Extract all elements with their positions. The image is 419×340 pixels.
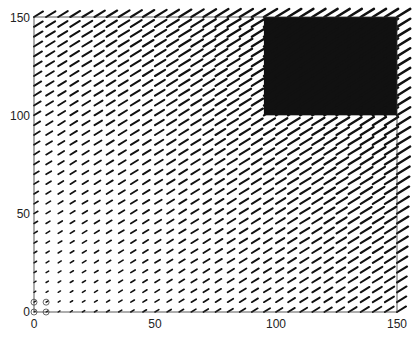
y-tick-0: 0: [23, 305, 30, 319]
vector-field: [34, 9, 410, 312]
x-tick-100: 100: [266, 317, 286, 331]
y-axis: 0 50 100 150: [10, 11, 30, 319]
x-axis: 0 50 100 150: [31, 317, 408, 331]
quiver-plot: 0 50 100 150 0 50 100 150: [0, 0, 419, 340]
x-tick-50: 50: [148, 317, 162, 331]
y-tick-150: 150: [10, 11, 30, 25]
x-tick-150: 150: [387, 317, 407, 331]
x-tick-0: 0: [31, 317, 38, 331]
y-tick-100: 100: [10, 109, 30, 123]
y-tick-50: 50: [17, 207, 31, 221]
